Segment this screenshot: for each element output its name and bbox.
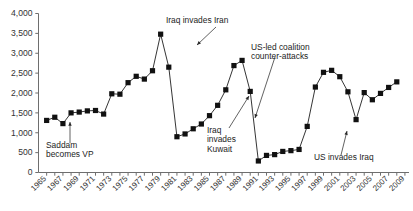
annotation-leader-line: [229, 96, 249, 128]
data-point: [191, 126, 196, 131]
data-point: [239, 58, 244, 63]
x-tick-label: 1979: [143, 174, 162, 193]
data-point: [52, 115, 57, 120]
x-tick-label: 1997: [290, 174, 309, 193]
x-tick-label: 2007: [371, 174, 390, 193]
x-tick-label: 1991: [241, 174, 260, 193]
y-tick-label: 4,000: [11, 8, 33, 18]
annotation-label: Kuwait: [207, 144, 233, 154]
data-point: [272, 152, 277, 157]
data-point: [313, 84, 318, 89]
data-point: [199, 121, 204, 126]
data-point: [125, 80, 130, 85]
annotation-label: US invades Iraq: [314, 152, 374, 162]
data-point: [77, 109, 82, 114]
annotation-iraq-invades-iran: Iraq invades Iran: [166, 15, 229, 45]
data-point: [93, 108, 98, 113]
data-point: [394, 79, 399, 84]
data-point: [60, 121, 65, 126]
data-point: [142, 76, 147, 81]
data-point: [248, 89, 253, 94]
data-point: [353, 117, 358, 122]
data-point: [337, 74, 342, 79]
data-point: [264, 153, 269, 158]
annotation-leader-line: [255, 57, 275, 118]
y-tick-label: 3,000: [11, 48, 33, 58]
data-point: [134, 74, 139, 79]
annotations-layer: Saddambecomes VPIraq invades IranIraqinv…: [46, 15, 374, 162]
x-tick-label: 1967: [45, 174, 64, 193]
y-tick-label: 2,000: [11, 88, 33, 98]
y-tick-label: 500: [18, 147, 33, 157]
chart-container: 05001,0001,5002,0002,5003,0003,5004,000 …: [0, 0, 413, 211]
annotation-us-invades-iraq: US invades Iraq: [314, 131, 374, 162]
data-point: [231, 63, 236, 68]
x-tick-label: 1973: [94, 174, 113, 193]
annotation-arrowhead: [255, 114, 258, 118]
x-axis: 1965196719691971197319751977197919811983…: [29, 173, 409, 193]
y-axis: 05001,0001,5002,0002,5003,0003,5004,000: [11, 8, 39, 177]
annotation-label: counter-attacks: [251, 51, 308, 61]
data-point: [109, 91, 114, 96]
x-tick-label: 1977: [127, 174, 146, 193]
data-point: [256, 158, 261, 163]
x-tick-label: 1971: [78, 174, 97, 193]
data-point: [345, 89, 350, 94]
x-tick-label: 1975: [111, 174, 130, 193]
data-point: [288, 148, 293, 153]
data-point: [296, 147, 301, 152]
data-point: [101, 111, 106, 116]
data-point: [85, 108, 90, 113]
annotation-saddam-vp: Saddambecomes VP: [46, 122, 94, 159]
x-tick-label: 2001: [322, 174, 341, 193]
annotation-coalition-counter: US-led coalitioncounter-attacks: [251, 42, 310, 118]
annotation-label: becomes VP: [46, 149, 94, 159]
annotation-leader-line: [197, 27, 216, 45]
y-tick-label: 2,500: [11, 68, 33, 78]
y-tick-label: 1,500: [11, 108, 33, 118]
y-tick-label: 1,000: [11, 128, 33, 138]
data-point: [321, 70, 326, 75]
x-tick-label: 2003: [339, 174, 358, 193]
x-tick-label: 1987: [208, 174, 227, 193]
annotation-arrowhead: [68, 122, 71, 126]
data-point: [362, 90, 367, 95]
x-tick-label: 1983: [176, 174, 195, 193]
data-point: [166, 65, 171, 70]
data-point: [182, 131, 187, 136]
y-tick-label: 0: [28, 167, 33, 177]
data-point: [378, 91, 383, 96]
x-tick-label: 1981: [159, 174, 178, 193]
data-point: [386, 85, 391, 90]
data-point: [305, 124, 310, 129]
x-tick-label: 1999: [306, 174, 325, 193]
data-point: [207, 113, 212, 118]
x-tick-label: 1985: [192, 174, 211, 193]
data-point: [44, 118, 49, 123]
data-point: [223, 87, 228, 92]
x-tick-label: 1995: [273, 174, 292, 193]
data-point: [150, 68, 155, 73]
x-tick-label: 2009: [387, 174, 406, 193]
data-point: [117, 92, 122, 97]
data-point: [68, 110, 73, 115]
x-tick-label: 1989: [225, 174, 244, 193]
data-point: [215, 103, 220, 108]
x-tick-label: 1993: [257, 174, 276, 193]
data-point: [158, 32, 163, 37]
data-point: [174, 134, 179, 139]
x-tick-label: 1969: [62, 174, 81, 193]
annotation-iraq-invades-kuwait: IraqinvadesKuwait: [207, 96, 249, 154]
data-point: [370, 97, 375, 102]
annotation-label: Iraq invades Iran: [166, 15, 229, 25]
line-chart: 05001,0001,5002,0002,5003,0003,5004,000 …: [0, 0, 413, 211]
data-point: [329, 68, 334, 73]
y-tick-label: 3,500: [11, 28, 33, 38]
data-point: [280, 149, 285, 154]
x-tick-label: 2005: [355, 174, 374, 193]
